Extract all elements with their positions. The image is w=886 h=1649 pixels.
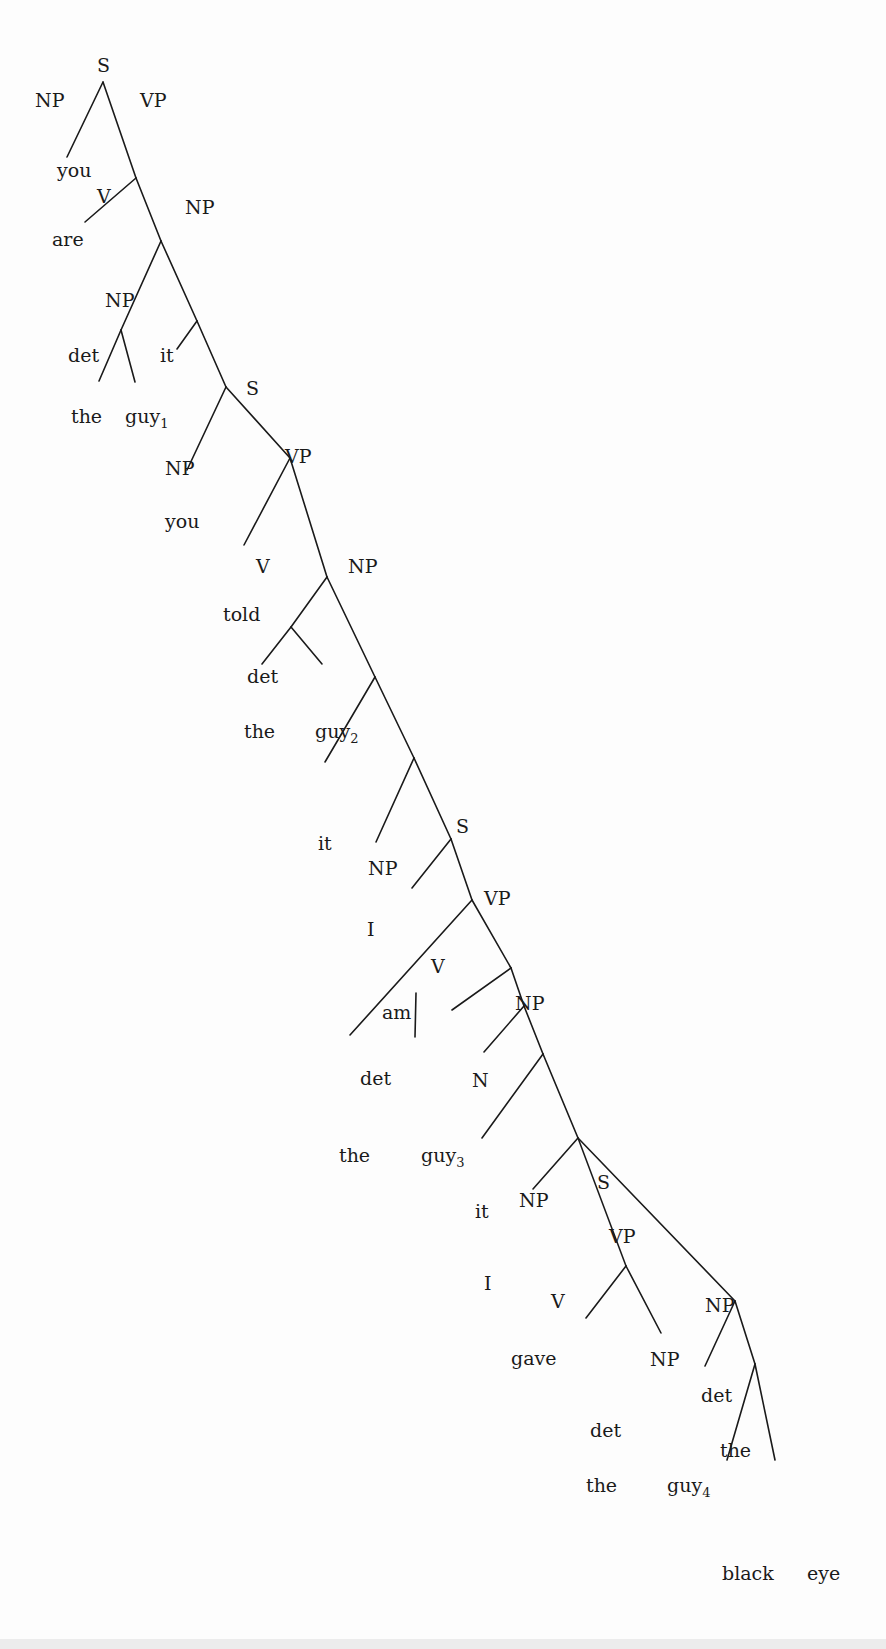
tree-branch — [735, 1301, 755, 1364]
tree-branch — [482, 1054, 543, 1138]
terminal-word: guy1 — [125, 405, 168, 431]
terminal-word: guy3 — [421, 1144, 464, 1170]
tree-branch — [67, 82, 103, 157]
subscript-index: 1 — [160, 416, 168, 431]
subscript-index: 4 — [702, 1485, 710, 1500]
category-label: S — [97, 54, 110, 76]
terminal-word: told — [223, 603, 260, 625]
tree-branch — [755, 1364, 775, 1460]
tree-branch — [121, 330, 135, 382]
category-label: NP — [185, 196, 215, 218]
category-label: det — [701, 1384, 732, 1406]
tree-branch — [136, 178, 161, 241]
terminal-word: gave — [511, 1347, 556, 1369]
category-label: V — [255, 555, 270, 577]
tree-branch — [197, 321, 226, 387]
terminal-word: you — [56, 159, 91, 181]
tree-branch — [586, 1266, 626, 1318]
terminal-word: you — [164, 510, 199, 532]
tree-branch — [415, 993, 416, 1037]
tree-branch — [375, 677, 414, 758]
category-label: S — [246, 377, 259, 399]
category-label: NP — [368, 857, 398, 879]
terminal-word: the — [71, 405, 102, 427]
tree-edges — [67, 82, 775, 1460]
tree-branch — [177, 321, 197, 349]
terminal-word: am — [382, 1001, 411, 1023]
tree-branch — [412, 839, 451, 888]
category-label: NP — [650, 1348, 680, 1370]
tree-branch — [578, 1138, 735, 1301]
category-label: det — [68, 344, 99, 366]
category-label: NP — [35, 89, 65, 111]
tree-branch — [451, 839, 472, 900]
tree-branch — [262, 627, 291, 664]
tree-branch — [99, 330, 121, 381]
subscript-index: 2 — [350, 731, 358, 746]
tree-branch — [472, 900, 511, 968]
category-label: NP — [105, 289, 135, 311]
tree-branch — [290, 458, 327, 577]
tree-branch — [414, 758, 451, 839]
terminal-word: eye — [807, 1562, 840, 1584]
terminal-word: the — [586, 1474, 617, 1496]
terminal-word: it — [475, 1200, 489, 1222]
category-label: NP — [515, 992, 545, 1014]
tree-branch — [103, 82, 136, 178]
category-label: NP — [348, 555, 378, 577]
category-label: VP — [139, 89, 167, 111]
category-label: V — [550, 1290, 565, 1312]
tree-branch — [452, 968, 511, 1010]
terminal-word: guy4 — [667, 1474, 710, 1500]
category-label: S — [456, 815, 469, 837]
terminal-word: the — [339, 1144, 370, 1166]
tree-branch — [626, 1266, 661, 1333]
terminal-word: the — [244, 720, 275, 742]
tree-labels: SNPVPyouVNPareNPdetitStheguy1NPVPyouVNPt… — [35, 54, 840, 1584]
category-label: NP — [165, 457, 195, 479]
category-label: S — [597, 1171, 610, 1193]
tree-branch — [327, 577, 375, 677]
category-label: NP — [705, 1294, 735, 1316]
category-label: NP — [519, 1189, 549, 1211]
category-label: det — [590, 1419, 621, 1441]
tree-branch — [533, 1138, 578, 1189]
category-label: N — [472, 1069, 489, 1091]
category-label: V — [96, 185, 111, 207]
page-bottom-edge — [0, 1639, 886, 1649]
terminal-word: are — [52, 228, 84, 250]
terminal-word: it — [160, 344, 174, 366]
category-label: det — [247, 665, 278, 687]
terminal-word: black — [722, 1562, 774, 1584]
terminal-word: I — [484, 1272, 492, 1294]
terminal-word: it — [318, 832, 332, 854]
tree-branch — [291, 577, 327, 627]
tree-branch — [543, 1054, 578, 1138]
tree-branch — [291, 627, 322, 664]
category-label: det — [360, 1067, 391, 1089]
tree-branch — [376, 758, 414, 842]
category-label: V — [430, 955, 445, 977]
tree-branch — [161, 241, 197, 321]
terminal-word: the — [720, 1439, 751, 1461]
syntax-tree-diagram: SNPVPyouVNPareNPdetitStheguy1NPVPyouVNPt… — [0, 0, 886, 1649]
subscript-index: 3 — [456, 1155, 464, 1170]
terminal-word: I — [367, 918, 375, 940]
tree-branch — [244, 458, 290, 545]
category-label: VP — [483, 887, 511, 909]
tree-branch — [121, 241, 161, 330]
category-label: VP — [608, 1225, 636, 1247]
category-label: VP — [284, 445, 312, 467]
